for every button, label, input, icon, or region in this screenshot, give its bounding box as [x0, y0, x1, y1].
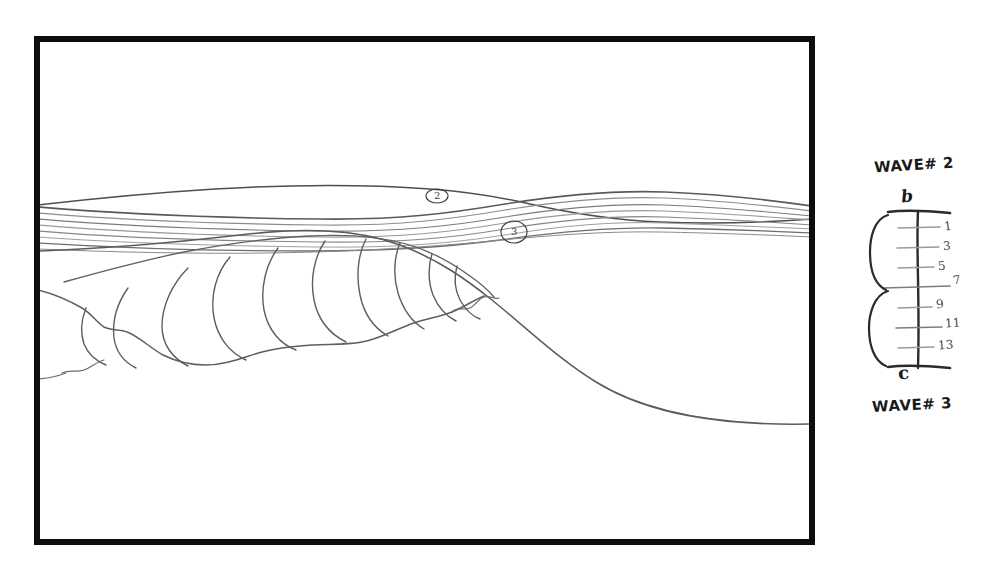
- scale-tick-label-11: 11: [945, 315, 961, 330]
- sketch-canvas: 2 3 WAVE# 2 b c WAVE# 3 1 3 5 7 9 11 13: [0, 0, 987, 566]
- scale-tick-label-9: 9: [935, 297, 944, 312]
- scale-tick-label-13: 13: [938, 337, 954, 352]
- wave-artwork: [0, 0, 987, 566]
- scale-tick-label-5: 5: [937, 259, 946, 274]
- scale-tick-9: [898, 307, 932, 308]
- scale-tick-11: [896, 327, 942, 328]
- callout-circle-3-label: 3: [511, 226, 517, 237]
- callout-circle-2-label: 2: [434, 190, 440, 201]
- scale-tick-label-1: 1: [943, 219, 952, 234]
- scale-tick-3: [897, 247, 939, 248]
- scale-tick-13: [898, 347, 934, 348]
- scale-tick-5: [898, 267, 934, 268]
- scale-tick-1: [898, 227, 940, 228]
- scale-point-b-label: b: [900, 185, 914, 206]
- scale-point-c-label: c: [897, 362, 910, 384]
- scale-tick-label-3: 3: [943, 239, 952, 253]
- scale-spine: [917, 211, 918, 368]
- paper-background: [0, 0, 987, 566]
